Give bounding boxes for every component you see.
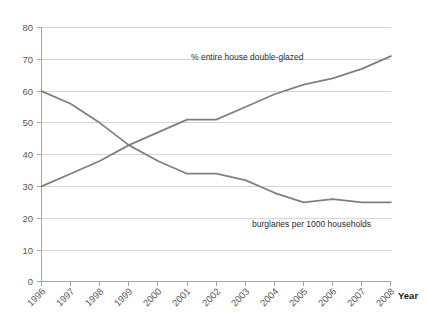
y-tick-label-70: 70: [22, 54, 33, 65]
y-tick-label-30: 30: [22, 181, 33, 192]
chart-background: [0, 0, 426, 326]
y-tick-label-60: 60: [22, 86, 33, 97]
annotation-double-glazed: % entire house double-glazed: [191, 52, 304, 62]
x-axis-title: Year: [398, 290, 418, 301]
y-tick-label-10: 10: [22, 245, 33, 256]
y-tick-label-50: 50: [22, 117, 33, 128]
chart-canvas: 80 70 60 50 40 30 20 10 0 1996: [0, 0, 426, 326]
y-tick-label-0: 0: [28, 276, 33, 287]
y-tick-label-80: 80: [22, 22, 33, 33]
y-tick-label-20: 20: [22, 213, 33, 224]
y-tick-label-40: 40: [22, 149, 33, 160]
annotation-burglaries: burglaries per 1000 households: [252, 219, 371, 229]
line-chart: 80 70 60 50 40 30 20 10 0 1996: [0, 0, 426, 326]
